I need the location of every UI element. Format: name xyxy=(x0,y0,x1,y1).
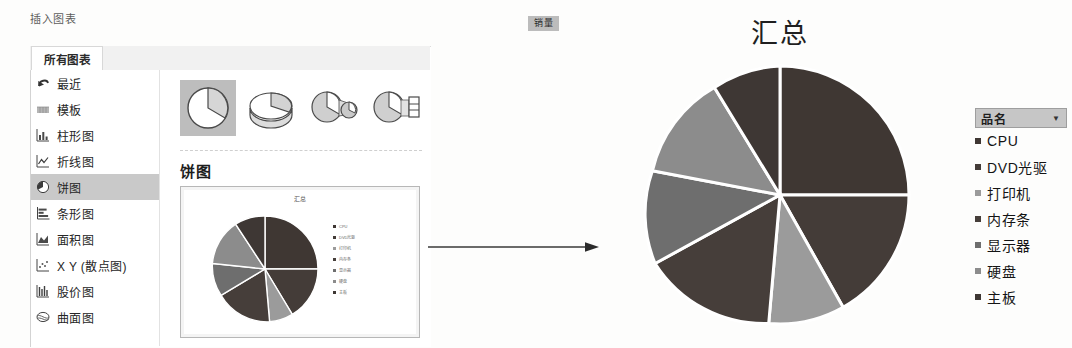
legend-label: DVD光驱 xyxy=(987,157,1048,177)
legend-swatch xyxy=(333,236,336,239)
chart-title: 汇总 xyxy=(650,12,910,51)
preview-legend-item: 显示器 xyxy=(333,265,403,276)
surface-chart-icon xyxy=(35,309,51,325)
legend-item-dvd[interactable]: DVD光驱 xyxy=(975,154,1067,180)
preview-legend-item: DVD光驱 xyxy=(333,232,403,243)
recent-arrow-icon xyxy=(35,75,51,91)
sidebar-item-template[interactable]: 模板 xyxy=(31,96,159,122)
legend-label: 内存条 xyxy=(987,209,1031,229)
chart-type-pane: 饼图 汇总 CPU xyxy=(160,70,430,346)
sidebar-item-area-chart[interactable]: 面积图 xyxy=(31,226,159,252)
legend-swatch xyxy=(975,268,981,274)
preview-legend-item: 主板 xyxy=(333,287,403,298)
chart-category-list: 最近 模板 柱形图 折线图 饼图 xyxy=(31,70,160,346)
sidebar-item-surface-chart[interactable]: 曲面图 xyxy=(31,304,159,330)
legend-item-harddisk[interactable]: 硬盘 xyxy=(975,258,1067,284)
chart-subtype-strip xyxy=(180,80,425,142)
legend-swatch xyxy=(333,269,336,272)
preview-legend-item: CPU xyxy=(333,221,403,232)
legend-swatch xyxy=(333,247,336,250)
preview-legend-label: CPU xyxy=(339,225,347,229)
legend-item-printer[interactable]: 打印机 xyxy=(975,180,1067,206)
chevron-down-icon: ▼ xyxy=(1052,114,1061,123)
legend-swatch xyxy=(975,294,981,300)
legend-swatch xyxy=(333,291,336,294)
legend-swatch xyxy=(975,138,981,144)
area-chart-icon xyxy=(35,231,51,247)
preview-legend: CPU DVD光驱 打印机 内存条 显示器 xyxy=(333,221,403,298)
sidebar-item-label: X Y (散点图) xyxy=(57,257,127,274)
sidebar-item-column-chart[interactable]: 柱形图 xyxy=(31,122,159,148)
bar-of-pie-icon[interactable] xyxy=(369,80,425,136)
sidebar-item-label: 模板 xyxy=(57,101,82,118)
legend-swatch xyxy=(333,280,336,283)
pie-2d-icon[interactable] xyxy=(180,80,236,136)
preview-legend-item: 硬盘 xyxy=(333,276,403,287)
sidebar-item-pie-chart[interactable]: 饼图 xyxy=(31,174,159,200)
sidebar-item-bar-chart[interactable]: 条形图 xyxy=(31,200,159,226)
sidebar-item-scatter-chart[interactable]: X Y (散点图) xyxy=(31,252,159,278)
line-chart-icon xyxy=(35,153,51,169)
sidebar-item-recent[interactable]: 最近 xyxy=(31,70,159,96)
sidebar-item-label: 条形图 xyxy=(57,205,94,222)
legend-label: 主板 xyxy=(987,287,1016,307)
sidebar-item-label: 最近 xyxy=(57,75,82,92)
preview-legend-label: 硬盘 xyxy=(339,280,347,284)
pie-3d-icon[interactable] xyxy=(243,80,299,136)
legend-swatch xyxy=(975,216,981,222)
pane-divider xyxy=(180,150,422,151)
legend-swatch xyxy=(333,225,336,228)
legend-filter-button[interactable]: 品名 ▼ xyxy=(975,108,1067,128)
sidebar-item-label: 饼图 xyxy=(57,179,82,196)
preview-pie-graphic xyxy=(207,211,323,327)
legend-swatch xyxy=(333,258,336,261)
sidebar-item-label: 柱形图 xyxy=(57,127,94,144)
pane-heading: 饼图 xyxy=(180,160,211,181)
legend-item-cpu[interactable]: CPU xyxy=(975,128,1067,154)
tab-all-charts[interactable]: 所有图表 xyxy=(31,46,103,70)
pie-of-pie-icon[interactable] xyxy=(306,80,362,136)
legend-label: CPU xyxy=(987,133,1018,149)
sidebar-item-label: 面积图 xyxy=(57,231,94,248)
chart-legend: 品名 ▼ CPU DVD光驱 打印机 内存条 显示器 硬盘 主板 xyxy=(975,108,1067,310)
legend-item-motherboard[interactable]: 主板 xyxy=(975,284,1067,310)
dialog-title: 插入图表 xyxy=(30,10,76,26)
pie-chart-icon xyxy=(35,179,51,195)
preview-legend-item: 打印机 xyxy=(333,243,403,254)
template-icon xyxy=(35,101,51,117)
legend-label: 显示器 xyxy=(987,235,1031,255)
legend-label: 打印机 xyxy=(987,183,1031,203)
legend-header-label: 品名 xyxy=(981,110,1007,127)
insert-chart-dialog: 插入图表 所有图表 最近 模板 柱形图 折线图 xyxy=(22,4,430,346)
legend-item-memory[interactable]: 内存条 xyxy=(975,206,1067,232)
preview-legend-label: 内存条 xyxy=(339,258,351,262)
preview-chart-title: 汇总 xyxy=(181,194,419,203)
result-chart: 销量 汇总 品名 ▼ CPU DVD光驱 打印机 xyxy=(520,0,1072,348)
sidebar-item-line-chart[interactable]: 折线图 xyxy=(31,148,159,174)
pie-slice-cpu xyxy=(780,66,909,195)
sidebar-item-label: 股价图 xyxy=(57,283,94,300)
legend-swatch xyxy=(975,242,981,248)
stock-chart-icon xyxy=(35,283,51,299)
sidebar-item-stock-chart[interactable]: 股价图 xyxy=(31,278,159,304)
pie-graphic[interactable] xyxy=(610,60,950,344)
legend-swatch xyxy=(975,164,981,170)
legend-swatch xyxy=(975,190,981,196)
bar-chart-icon xyxy=(35,205,51,221)
scatter-chart-icon xyxy=(35,257,51,273)
preview-legend-label: 主板 xyxy=(339,291,347,295)
sidebar-item-label: 折线图 xyxy=(57,153,94,170)
sidebar-item-label: 曲面图 xyxy=(57,309,94,326)
preview-legend-label: 打印机 xyxy=(339,247,351,251)
preview-legend-item: 内存条 xyxy=(333,254,403,265)
column-chart-icon xyxy=(35,127,51,143)
value-field-badge[interactable]: 销量 xyxy=(528,16,559,31)
legend-item-monitor[interactable]: 显示器 xyxy=(975,232,1067,258)
chart-preview[interactable]: 汇总 CPU DVD光驱 xyxy=(180,186,420,338)
legend-label: 硬盘 xyxy=(987,261,1016,281)
preview-legend-label: 显示器 xyxy=(339,269,351,273)
preview-legend-label: DVD光驱 xyxy=(339,236,355,240)
